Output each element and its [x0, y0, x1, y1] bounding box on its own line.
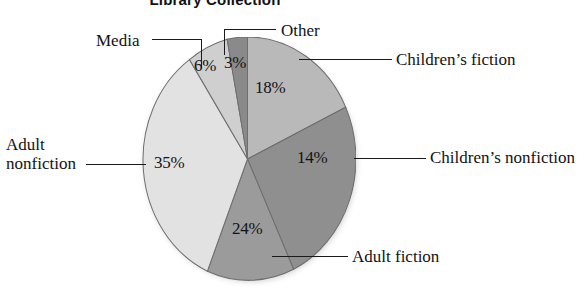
- pie-chart-figure: Library Collection 18% 14% 24% 35% 6%: [0, 0, 584, 288]
- leader-line-media-drop: [201, 39, 202, 68]
- callout-label-media: Media: [96, 31, 139, 50]
- slice-value-childrens-nonfiction: 14%: [297, 148, 328, 168]
- slice-value-adult-fiction: 24%: [232, 219, 263, 239]
- callout-label-adult-nonfiction-line2: nonfiction: [6, 154, 76, 173]
- leader-line-childrens-fiction: [299, 59, 392, 60]
- slice-value-childrens-fiction: 18%: [255, 78, 286, 98]
- callout-label-adult-fiction: Adult fiction: [352, 247, 439, 266]
- callout-label-other: Other: [281, 21, 320, 40]
- callout-label-adult-nonfiction: Adult nonfiction: [6, 135, 76, 173]
- leader-line-other-drop: [224, 29, 225, 55]
- slice-value-media: 6%: [194, 56, 216, 76]
- callout-label-childrens-nonfiction: Children’s nonfiction: [430, 148, 575, 167]
- leader-line-adult-nonfiction: [86, 164, 146, 165]
- leader-line-other: [224, 29, 276, 30]
- slice-value-other: 3%: [224, 53, 246, 73]
- callout-label-childrens-fiction: Children’s fiction: [396, 50, 515, 69]
- callout-label-adult-nonfiction-line1: Adult: [6, 135, 76, 154]
- slice-value-adult-nonfiction: 35%: [154, 153, 185, 173]
- leader-line-childrens-nonfiction: [354, 158, 426, 159]
- page-title: Library Collection: [0, 0, 430, 8]
- leader-line-adult-fiction: [272, 256, 348, 257]
- leader-line-media: [152, 39, 202, 40]
